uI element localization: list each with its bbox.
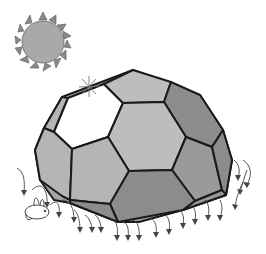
dome-structure xyxy=(35,70,232,222)
sun-icon xyxy=(15,12,71,71)
illustration-canvas xyxy=(0,0,266,254)
small-animal xyxy=(25,198,49,220)
